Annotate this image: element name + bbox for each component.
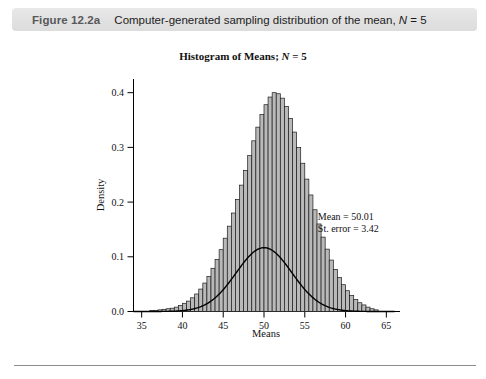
histogram-bar bbox=[276, 94, 280, 312]
histogram-bar bbox=[268, 97, 272, 311]
annotation-standard-error: St. error = 3.42 bbox=[318, 223, 379, 234]
y-axis-ticks bbox=[128, 93, 134, 312]
histogram-bar bbox=[211, 268, 215, 311]
histogram-bar bbox=[317, 224, 321, 312]
x-tick-label: 60 bbox=[341, 320, 351, 331]
histogram-bar bbox=[235, 199, 239, 311]
histogram-bar bbox=[227, 226, 231, 311]
y-tick-label: 0.0 bbox=[112, 306, 125, 317]
histogram-bar bbox=[362, 305, 366, 312]
histogram-bar bbox=[240, 185, 244, 311]
histogram-bar bbox=[329, 260, 333, 311]
histogram-bar bbox=[288, 118, 292, 311]
histogram-bar bbox=[264, 105, 268, 312]
histogram-bar bbox=[280, 98, 284, 311]
bottom-divider bbox=[14, 365, 476, 366]
histogram-bar bbox=[354, 299, 358, 311]
caption-text-part-1: Computer-generated sampling distribution… bbox=[114, 14, 398, 26]
histogram-bar bbox=[358, 303, 362, 312]
y-tick-label: 0.4 bbox=[112, 87, 125, 98]
histogram-bar bbox=[244, 170, 248, 311]
y-tick-label: 0.1 bbox=[112, 251, 125, 262]
histogram-bar bbox=[321, 237, 325, 311]
chart-annotations: Mean = 50.01St. error = 3.42 bbox=[318, 211, 379, 235]
histogram-bar bbox=[293, 132, 297, 311]
histogram-bar bbox=[341, 285, 345, 312]
x-tick-label: 45 bbox=[218, 320, 228, 331]
x-tick-label: 35 bbox=[137, 320, 147, 331]
x-tick-label: 55 bbox=[300, 320, 310, 331]
histogram-bar bbox=[199, 289, 203, 311]
histogram-bar bbox=[337, 278, 341, 312]
histogram-bar bbox=[219, 250, 223, 312]
histogram-bar bbox=[223, 238, 227, 311]
y-axis-tick-labels: 0.00.10.20.30.4 bbox=[112, 87, 125, 317]
caption-italic-n: N bbox=[399, 14, 407, 26]
y-tick-label: 0.2 bbox=[112, 197, 125, 208]
figure-number-label: Figure 12.2a bbox=[32, 14, 100, 26]
histogram-bar bbox=[215, 260, 219, 312]
figure-caption-text: Computer-generated sampling distribution… bbox=[114, 14, 426, 26]
x-axis-label: Means bbox=[252, 328, 280, 339]
figure-caption-banner: Figure 12.2a Computer-generated sampling… bbox=[12, 8, 477, 31]
histogram-bar bbox=[231, 213, 235, 311]
histogram-bars bbox=[150, 93, 378, 312]
histogram-bar bbox=[272, 93, 276, 312]
histogram-bar bbox=[313, 210, 317, 312]
histogram-bar bbox=[325, 249, 329, 311]
histogram-bar bbox=[350, 296, 354, 312]
y-tick-label: 0.3 bbox=[112, 142, 125, 153]
chart-container: Histogram of Means; N = 5 0.00.10.20.30.… bbox=[0, 34, 486, 344]
x-axis-ticks bbox=[142, 312, 387, 318]
x-tick-label: 40 bbox=[177, 320, 187, 331]
histogram-bar bbox=[203, 283, 207, 311]
y-axis-label: Density bbox=[95, 178, 106, 211]
histogram-bar bbox=[252, 141, 256, 312]
histogram-bar bbox=[207, 276, 211, 311]
histogram-bar bbox=[333, 269, 337, 311]
histogram-bar bbox=[260, 115, 264, 312]
histogram-bar bbox=[297, 147, 301, 311]
histogram-bar bbox=[248, 156, 252, 312]
histogram-bar bbox=[284, 106, 288, 311]
caption-text-part-2: = 5 bbox=[407, 14, 427, 26]
histogram-plot: 0.00.10.20.30.4 35404550556065 Means Den… bbox=[0, 34, 486, 344]
annotation-mean: Mean = 50.01 bbox=[318, 211, 374, 222]
histogram-bar bbox=[256, 127, 260, 311]
histogram-bar bbox=[346, 291, 350, 312]
x-tick-label: 65 bbox=[381, 320, 391, 331]
